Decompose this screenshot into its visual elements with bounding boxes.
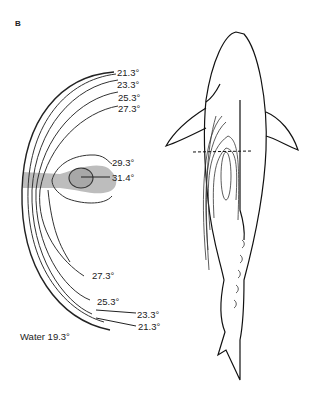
shark-outline [166,32,298,380]
label-21-3-upper: 21.3° [117,68,139,78]
isotherm-inner [48,190,70,262]
isotherm-21-3-inner [28,74,116,322]
label-29-3: 29.3° [112,158,134,168]
label-25-3-upper: 25.3° [118,93,140,103]
label-27-3-lower: 27.3° [92,271,114,281]
shark-internal-isotherms [203,116,238,270]
label-27-3-upper: 27.3° [118,104,140,114]
label-21-3-lower: 21.3° [138,322,160,332]
label-23-3-upper: 23.3° [117,80,139,90]
label-23-3-lower: 23.3° [137,310,159,320]
label-25-3-lower: 25.3° [97,297,119,307]
water-temperature-label: Water 19.3° [20,332,70,342]
isotherm-31-4 [69,168,93,188]
label-31-4: 31.4° [112,173,134,183]
